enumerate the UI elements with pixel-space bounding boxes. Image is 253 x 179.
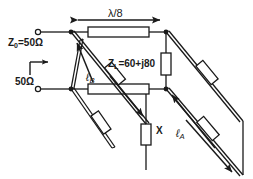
junction-dot-bottom-left	[69, 87, 74, 92]
la-subscript: A	[180, 132, 185, 141]
lb-subscript: B	[90, 76, 95, 85]
input-terminal-bottom	[35, 86, 40, 91]
stub-b-transmission-line	[71, 39, 83, 89]
reactance-label: X	[156, 126, 163, 136]
stub-a-length-label: ℓA	[176, 128, 185, 139]
source-impedance-label: Z0=50Ω	[8, 38, 43, 48]
transmission-line-diagram: λ/8 Z0=50Ω 50Ω ZL=60+j80 X ℓA ℓB	[0, 0, 253, 179]
reactance-stub-element	[141, 94, 151, 170]
junction-dot-top-right	[164, 30, 169, 35]
zl-subscript: L	[114, 63, 118, 70]
input-impedance-label: 50Ω	[15, 77, 34, 87]
load-impedance-element	[161, 32, 171, 89]
junction-dot-top-left	[69, 30, 74, 35]
lambda-eighth-line-section	[88, 27, 149, 37]
diagram-canvas	[0, 0, 253, 179]
input-terminal-top	[35, 29, 40, 34]
junction-dot-bottom-right	[164, 87, 169, 92]
stub-b-extension-arrow	[110, 76, 143, 116]
z0-value: =50Ω	[18, 37, 43, 48]
zl-value: =60+j80	[118, 58, 155, 69]
input-impedance-arrow	[30, 62, 48, 75]
lambda-length-label: λ/8	[108, 8, 123, 19]
load-impedance-label: ZL=60+j80	[108, 59, 155, 69]
z0-subscript: 0	[14, 42, 18, 49]
stub-b-length-label: ℓB	[86, 72, 95, 83]
